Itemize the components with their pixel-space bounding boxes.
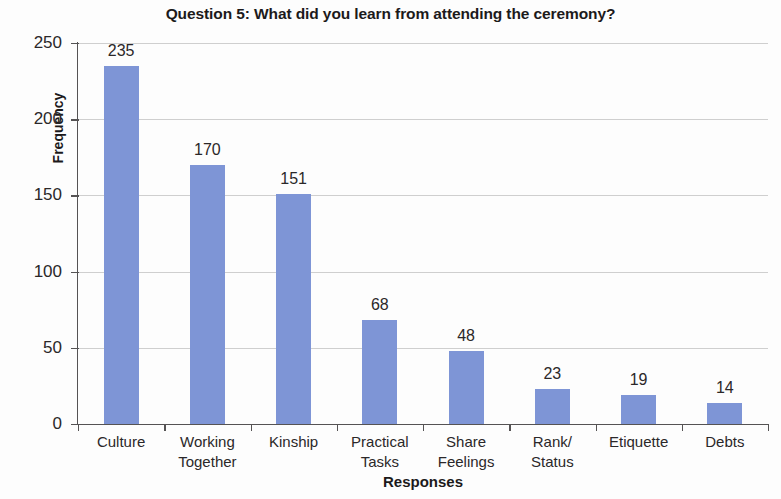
y-axis-tick — [71, 195, 79, 196]
bar — [535, 389, 570, 424]
gridline — [78, 119, 768, 120]
x-axis-category-label: Debts — [682, 432, 768, 452]
category-label-line: Together — [164, 452, 250, 472]
y-axis-tick-label: 100 — [0, 262, 62, 282]
x-axis-category-label: Culture — [78, 432, 164, 452]
y-axis-tick-label: 150 — [0, 185, 62, 205]
chart-title: Question 5: What did you learn from atte… — [0, 5, 781, 23]
bar-value-label: 19 — [596, 371, 682, 389]
category-label-line: Kinship — [251, 432, 337, 452]
bar-value-label: 48 — [423, 327, 509, 345]
bar — [621, 395, 656, 424]
bar — [449, 351, 484, 424]
category-label-line: Feelings — [423, 452, 509, 472]
x-axis-tick — [768, 424, 769, 431]
x-axis-tick — [509, 424, 510, 431]
bar — [276, 194, 311, 424]
bar-chart-figure: Question 5: What did you learn from atte… — [0, 0, 781, 499]
x-axis-category-label: WorkingTogether — [164, 432, 250, 472]
bar — [362, 320, 397, 424]
category-label-line: Debts — [682, 432, 768, 452]
x-axis-category-label: PracticalTasks — [337, 432, 423, 472]
category-label-line: Etiquette — [596, 432, 682, 452]
y-axis-tick-label: 50 — [0, 338, 62, 358]
category-label-line: Tasks — [337, 452, 423, 472]
bar-value-label: 151 — [251, 170, 337, 188]
x-axis-tick — [164, 424, 165, 431]
x-axis-tick — [423, 424, 424, 431]
y-axis-tick-label: 0 — [0, 414, 62, 434]
bar-value-label: 235 — [78, 42, 164, 60]
category-label-line: Status — [509, 452, 595, 472]
x-axis-category-label: ShareFeelings — [423, 432, 509, 472]
x-axis-tick — [78, 424, 79, 431]
y-axis-tick-label: 250 — [0, 33, 62, 53]
bar — [707, 403, 742, 424]
y-axis-tick — [71, 272, 79, 273]
y-axis-tick — [71, 348, 79, 349]
x-axis-category-label: Etiquette — [596, 432, 682, 452]
bar-value-label: 68 — [337, 296, 423, 314]
gridline — [78, 348, 768, 349]
bar-value-label: 170 — [164, 141, 250, 159]
category-label-line: Share — [423, 432, 509, 452]
bar-value-label: 23 — [509, 365, 595, 383]
y-axis-tick-label: 200 — [0, 109, 62, 129]
x-axis-tick — [596, 424, 597, 431]
category-label-line: Working — [164, 432, 250, 452]
category-label-line: Practical — [337, 432, 423, 452]
y-axis-tick — [71, 119, 79, 120]
gridline — [78, 195, 768, 196]
category-label-line: Culture — [78, 432, 164, 452]
x-axis-tick — [251, 424, 252, 431]
category-label-line: Rank/ — [509, 432, 595, 452]
plot-area: 2351701516848231914 — [78, 43, 768, 424]
x-axis-tick — [337, 424, 338, 431]
bar — [190, 165, 225, 424]
x-axis-category-label: Kinship — [251, 432, 337, 452]
bar — [104, 66, 139, 424]
x-axis-tick — [682, 424, 683, 431]
x-axis-category-label: Rank/Status — [509, 432, 595, 472]
gridline — [78, 272, 768, 273]
x-axis-title: Responses — [78, 473, 768, 490]
bar-value-label: 14 — [682, 379, 768, 397]
gridline — [78, 43, 768, 44]
